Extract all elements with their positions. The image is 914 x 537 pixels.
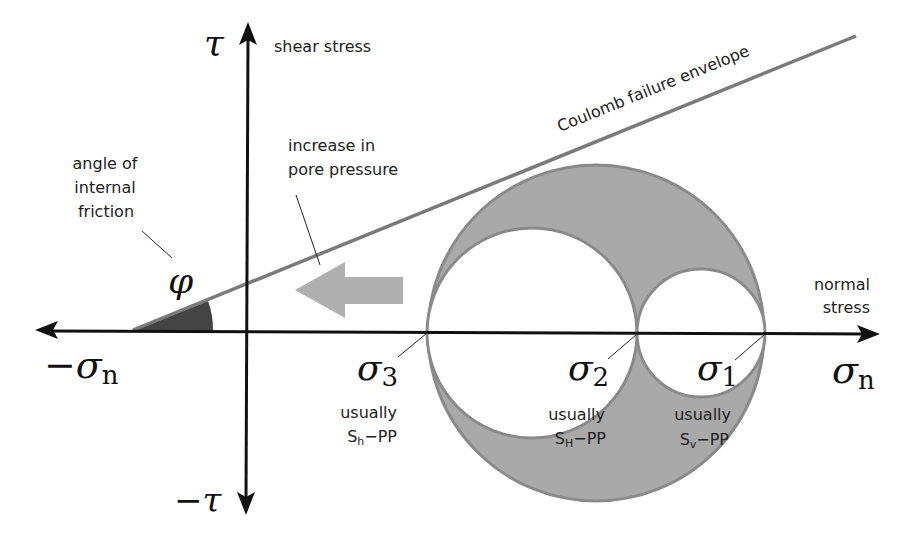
pore-pressure-label-line2: pore pressure — [288, 160, 398, 179]
sigma1-note: usually — [674, 405, 731, 424]
y-axis — [246, 38, 248, 500]
sigma3-note: usually — [340, 403, 397, 422]
friction-label-line1: angle of — [73, 154, 138, 173]
mohr-diagram: τ shear stress −τ −σn σn normal stress C… — [0, 0, 914, 537]
sigma2-note: usually — [548, 405, 605, 424]
sigma1-stress: Sv−PP — [680, 430, 730, 451]
friction-label-line3: friction — [78, 202, 134, 221]
tau-symbol: τ — [204, 22, 225, 63]
friction-label-line2: internal — [74, 178, 135, 197]
sigma2-stress: SH−PP — [555, 429, 606, 450]
sigma-n-symbol: σn — [832, 348, 875, 395]
sigma3-stress: Sh−PP — [347, 427, 397, 448]
phi-symbol: φ — [168, 260, 194, 301]
shear-stress-label: shear stress — [274, 37, 371, 56]
pore-pressure-label-line1: increase in — [288, 136, 375, 155]
neg-tau-symbol: −τ — [174, 480, 222, 520]
pore-pressure-leader — [296, 195, 320, 265]
diagram-canvas: τ shear stress −τ −σn σn normal stress C… — [0, 0, 914, 537]
coulomb-envelope-label: Coulomb failure envelope — [554, 41, 751, 136]
stress-label: stress — [823, 298, 870, 317]
principal-stress-sigma3: σ3 usually Sh−PP — [340, 347, 398, 448]
sigma3-symbol: σ3 — [357, 347, 398, 392]
friction-leader — [142, 231, 172, 258]
pore-pressure-arrow-icon — [295, 262, 403, 318]
normal-label: normal — [814, 275, 870, 294]
neg-sigma-n-symbol: −σn — [44, 343, 119, 390]
sigma3-leader — [398, 333, 427, 357]
